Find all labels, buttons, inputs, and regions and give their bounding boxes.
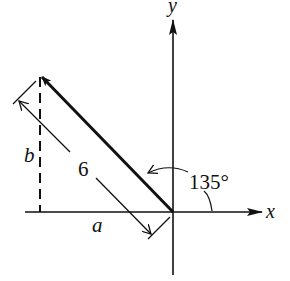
magnitude-label: 6	[78, 157, 89, 181]
vertical-component-label: b	[24, 143, 35, 167]
horizontal-component-label: a	[92, 213, 103, 237]
angle-label: 135°	[189, 170, 229, 194]
y-axis-label: y	[166, 0, 177, 17]
vector-diagram: x y 6 b a 135°	[0, 0, 290, 281]
x-axis-label: x	[265, 200, 275, 222]
